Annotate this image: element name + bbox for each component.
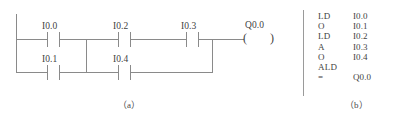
caption-panel-b: （b） — [345, 100, 368, 110]
ladder-diagram-panel: I0.0 I0.1 I0.2 I0.3 I0.4 Q0.0 ( ) （a） — [0, 0, 300, 120]
instruction-opcode: LD — [318, 31, 353, 41]
instruction-opcode: = — [318, 72, 353, 82]
instruction-opcode: ALD — [318, 62, 353, 72]
contact-label-i00: I0.0 — [42, 21, 57, 31]
instruction-row: LD I0.2 — [318, 31, 385, 41]
instruction-row: = Q0.0 — [318, 72, 385, 82]
contact-label-i03: I0.3 — [181, 21, 196, 31]
instruction-operand: I0.4 — [353, 52, 385, 62]
instruction-row: O I0.4 — [318, 52, 385, 62]
coil-paren-right-icon: ) — [270, 33, 274, 43]
instruction-operand: I0.3 — [353, 42, 385, 52]
instruction-list-table: LD I0.0 O I0.1 LD I0.2 A I0.3 O I0.4 — [318, 11, 385, 82]
coil-paren-left-icon: ( — [243, 33, 247, 43]
contact-label-i01: I0.1 — [42, 54, 57, 64]
caption-panel-a: （a） — [118, 100, 140, 110]
instruction-row: A I0.3 — [318, 42, 385, 52]
instruction-row: ALD — [318, 62, 385, 72]
instruction-operand: I0.1 — [353, 21, 385, 31]
coil-label-q00: Q0.0 — [245, 20, 264, 30]
instruction-list-panel: LD I0.0 O I0.1 LD I0.2 A I0.3 O I0.4 — [300, 0, 400, 120]
instruction-operand: I0.2 — [353, 31, 385, 41]
figure-root: I0.0 I0.1 I0.2 I0.3 I0.4 Q0.0 ( ) （a） LD… — [0, 0, 400, 120]
contact-label-i04: I0.4 — [113, 54, 128, 64]
instruction-row: O I0.1 — [318, 21, 385, 31]
panel-divider — [303, 10, 304, 96]
instruction-opcode: LD — [318, 11, 353, 21]
instruction-operand: Q0.0 — [353, 72, 385, 82]
instruction-operand — [353, 62, 385, 72]
instruction-opcode: O — [318, 52, 353, 62]
contact-label-i02: I0.2 — [113, 21, 128, 31]
instruction-operand: I0.0 — [353, 11, 385, 21]
instruction-row: LD I0.0 — [318, 11, 385, 21]
instruction-opcode: A — [318, 42, 353, 52]
instruction-opcode: O — [318, 21, 353, 31]
